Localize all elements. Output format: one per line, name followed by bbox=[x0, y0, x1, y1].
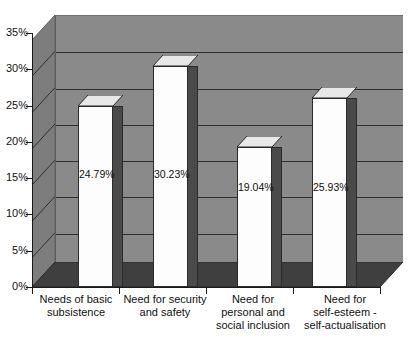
y-tick-label-25: 25% bbox=[0, 99, 28, 111]
category-label-2-line-2: and safety bbox=[119, 306, 211, 319]
category-label-4-line-3: self-actualisation bbox=[295, 319, 395, 332]
chart-3d-scene: 24.79% 30.23% 19.04% bbox=[0, 0, 420, 339]
y-tick-label-10: 10% bbox=[0, 207, 28, 219]
category-label-3: Need for personal and social inclusion bbox=[207, 293, 299, 332]
y-tick-label-15: 15% bbox=[0, 171, 28, 183]
category-label-4: Need for self-esteem - self-actualisatio… bbox=[295, 293, 395, 332]
y-tick-label-0: 0% bbox=[0, 280, 28, 292]
y-tick-label-30: 30% bbox=[0, 62, 28, 74]
category-label-3-line-2: personal and bbox=[207, 306, 299, 319]
y-tick-label-5: 5% bbox=[0, 244, 28, 256]
category-label-1: Needs of basic subsistence bbox=[30, 293, 122, 319]
bar-chart: 24.79% 30.23% 19.04% bbox=[0, 0, 420, 339]
y-tick-label-20: 20% bbox=[0, 135, 28, 147]
category-label-4-line-1: Need for bbox=[295, 293, 395, 306]
category-label-3-line-1: Need for bbox=[207, 293, 299, 306]
category-label-1-line-1: Needs of basic bbox=[30, 293, 122, 306]
category-label-2-line-1: Need for security bbox=[119, 293, 211, 306]
y-tick-label-35: 35% bbox=[0, 26, 28, 38]
category-label-1-line-2: subsistence bbox=[30, 306, 122, 319]
category-label-3-line-3: social inclusion bbox=[207, 319, 299, 332]
category-label-4-line-2: self-esteem - bbox=[295, 306, 395, 319]
y-axis-labels: 35% 30% 25% 20% 15% 10% 5% 0% bbox=[0, 0, 420, 339]
category-label-2: Need for security and safety bbox=[119, 293, 211, 319]
